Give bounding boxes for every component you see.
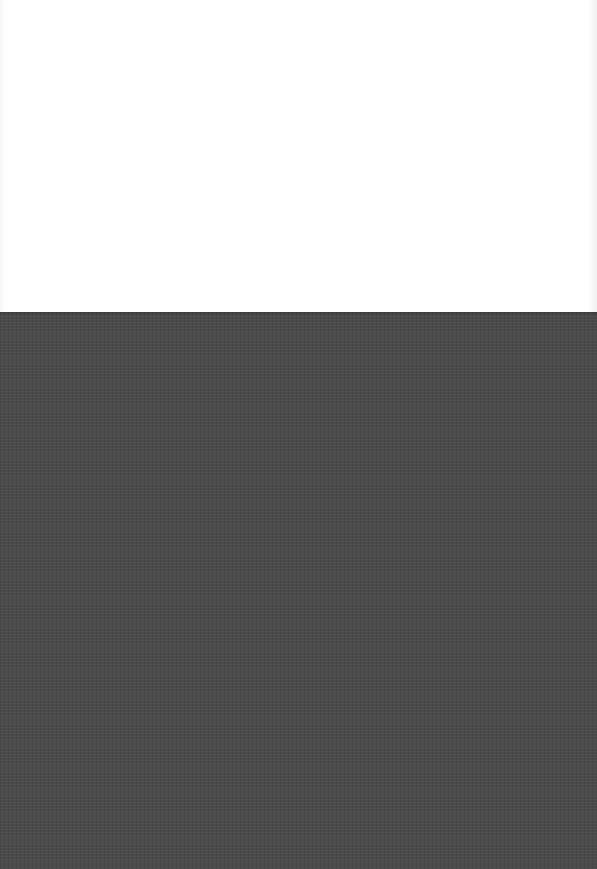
blank-paper-sheet xyxy=(0,0,597,313)
paper-shadow-edge xyxy=(0,312,597,316)
photo-scene xyxy=(0,0,597,869)
dark-textured-surface xyxy=(0,312,597,869)
